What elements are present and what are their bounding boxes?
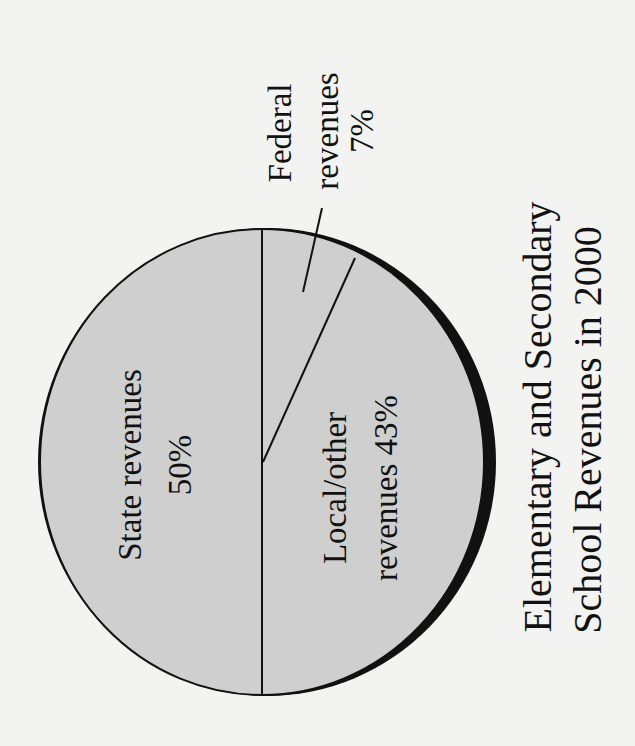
chart-page: State revenues 50% Local/other revenues … [0, 0, 635, 746]
slice-value-local: revenues 43% [368, 395, 404, 581]
svg-text:50%: 50% [162, 435, 198, 496]
svg-text:Local/other: Local/other [317, 412, 353, 564]
svg-text:revenues 43%: revenues 43% [368, 395, 404, 581]
svg-text:Elementary and Secondary: Elementary and Secondary [515, 202, 560, 633]
svg-text:7%: 7% [344, 109, 380, 153]
slice-label-state: State revenues [112, 369, 148, 561]
svg-text:State revenues: State revenues [112, 369, 148, 561]
slice-label-federal-line2: revenues [309, 72, 345, 189]
svg-text:revenues: revenues [309, 72, 345, 189]
slice-value-state: 50% [162, 435, 198, 496]
slice-label-federal: Federal [262, 84, 298, 183]
slice-value-federal: 7% [344, 109, 380, 153]
svg-text:School Revenues in 2000: School Revenues in 2000 [565, 226, 610, 634]
svg-text:Federal: Federal [262, 84, 298, 183]
chart-title-line2: School Revenues in 2000 [565, 226, 610, 634]
slice-label-local: Local/other [317, 412, 353, 564]
pie-chart: State revenues 50% Local/other revenues … [0, 0, 635, 746]
chart-title-line1: Elementary and Secondary [515, 202, 560, 633]
